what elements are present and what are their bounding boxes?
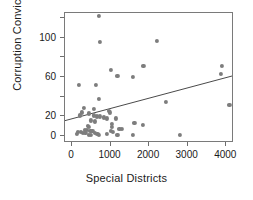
x-axis-title: Special Districts — [0, 172, 253, 184]
x-tick-label: 2000 — [137, 149, 159, 160]
x-tick — [71, 142, 72, 146]
plot-area — [65, 13, 232, 141]
x-tick-label: 0 — [68, 149, 74, 160]
y-minor-tick — [60, 56, 64, 57]
plot-frame — [64, 12, 233, 142]
y-tick-label: 60 — [45, 71, 56, 82]
y-tick — [60, 76, 64, 77]
y-minor-tick — [60, 96, 64, 97]
y-tick-label: 20 — [45, 110, 56, 121]
x-tick-label: 4000 — [214, 149, 236, 160]
y-tick-label: 100 — [39, 31, 56, 42]
y-minor-tick — [60, 17, 64, 18]
x-tick — [187, 142, 188, 146]
x-tick — [148, 142, 149, 146]
x-tick — [110, 142, 111, 146]
y-axis-title: Corruption Convictions — [11, 0, 23, 98]
scatter-plot-figure: Special Districts Corruption Convictions… — [0, 0, 253, 200]
y-tick-label: 0 — [50, 130, 56, 141]
x-tick-label: 1000 — [98, 149, 120, 160]
y-tick — [60, 135, 64, 136]
x-tick — [225, 142, 226, 146]
x-tick-label: 3000 — [176, 149, 198, 160]
y-tick — [60, 37, 64, 38]
y-tick — [60, 115, 64, 116]
